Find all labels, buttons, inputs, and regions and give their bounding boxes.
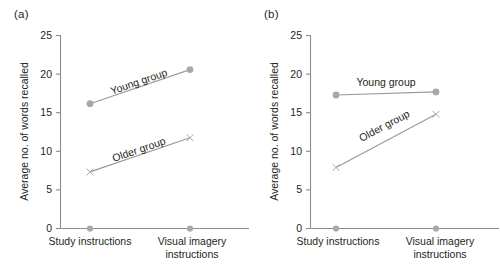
figure-two-panel-line-charts: (a) 0 5 10 15 20 25 Average no. of words…	[0, 0, 500, 276]
x-category-label-visual-line1-b: Visual imagery	[406, 235, 475, 247]
y-tick-label-15-a: 15	[40, 106, 52, 118]
data-point-young-visual-b	[433, 89, 440, 96]
series-label-young-b: Young group	[356, 76, 415, 88]
plot-area-a: 0 5 10 15 20 25 Average no. of words rec…	[0, 0, 250, 276]
y-tick-label-5-a: 5	[46, 183, 52, 195]
data-point-older-study-b	[333, 164, 340, 171]
y-tick-label-10-b: 10	[290, 145, 302, 157]
series-label-older-a: Older group	[111, 134, 167, 163]
panel-a: (a) 0 5 10 15 20 25 Average no. of words…	[0, 0, 250, 276]
series-line-young-b	[336, 92, 436, 95]
y-tick-label-20-a: 20	[40, 68, 52, 80]
y-tick-label-25-a: 25	[40, 29, 52, 41]
y-tick-label-15-b: 15	[290, 106, 302, 118]
x-category-label-study-a: Study instructions	[49, 235, 132, 247]
baseline-marker-visual-b	[433, 225, 439, 231]
data-point-young-study-a	[87, 100, 94, 107]
plot-area-b: 0 5 10 15 20 25 Average no. of words rec…	[250, 0, 500, 276]
data-point-older-visual-a	[187, 134, 194, 141]
data-point-older-study-a	[87, 169, 94, 176]
data-point-older-visual-b	[433, 111, 440, 118]
x-category-label-visual-line1-a: Visual imagery	[158, 235, 227, 247]
x-category-label-visual-line2-a: instructions	[165, 248, 218, 260]
x-category-label-study-b: Study instructions	[297, 235, 380, 247]
y-tick-label-10-a: 10	[40, 145, 52, 157]
panel-b: (b) 0 5 10 15 20 25 Average no. of words…	[250, 0, 500, 276]
x-category-label-visual-line2-b: instructions	[413, 248, 466, 260]
baseline-marker-study-b	[333, 225, 339, 231]
baseline-marker-visual-a	[187, 225, 193, 231]
y-tick-label-25-b: 25	[290, 29, 302, 41]
data-point-young-study-b	[333, 92, 340, 99]
y-axis-title-a: Average no. of words recalled	[18, 62, 30, 201]
y-axis-title-b: Average no. of words recalled	[268, 62, 280, 201]
data-point-young-visual-a	[187, 66, 194, 73]
series-label-young-a: Young group	[109, 66, 169, 97]
y-tick-label-0-a: 0	[46, 222, 52, 234]
y-tick-label-5-b: 5	[296, 183, 302, 195]
series-label-older-b: Older group	[357, 107, 412, 144]
baseline-marker-study-a	[87, 225, 93, 231]
y-tick-label-0-b: 0	[296, 222, 302, 234]
y-tick-label-20-b: 20	[290, 68, 302, 80]
